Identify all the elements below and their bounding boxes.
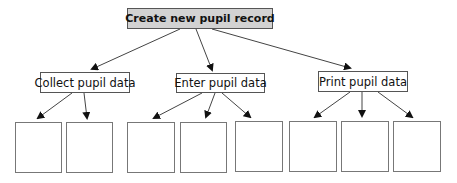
empty-subbox	[15, 122, 62, 173]
empty-subbox	[127, 122, 175, 173]
empty-subbox	[289, 121, 337, 172]
child-node-collect: Collect pupil data	[40, 72, 130, 93]
child-label: Print pupil data	[319, 75, 407, 89]
root-label: Create new pupil record	[125, 12, 274, 25]
empty-subbox	[341, 121, 389, 172]
empty-subbox	[393, 121, 441, 172]
child-label: Enter pupil data	[174, 76, 266, 90]
child-node-print: Print pupil data	[318, 71, 408, 92]
root-node: Create new pupil record	[127, 8, 273, 29]
child-node-enter: Enter pupil data	[176, 73, 265, 93]
empty-subbox	[235, 121, 283, 172]
empty-subbox	[66, 122, 113, 173]
child-label: Collect pupil data	[35, 76, 136, 90]
empty-subbox	[180, 122, 227, 173]
